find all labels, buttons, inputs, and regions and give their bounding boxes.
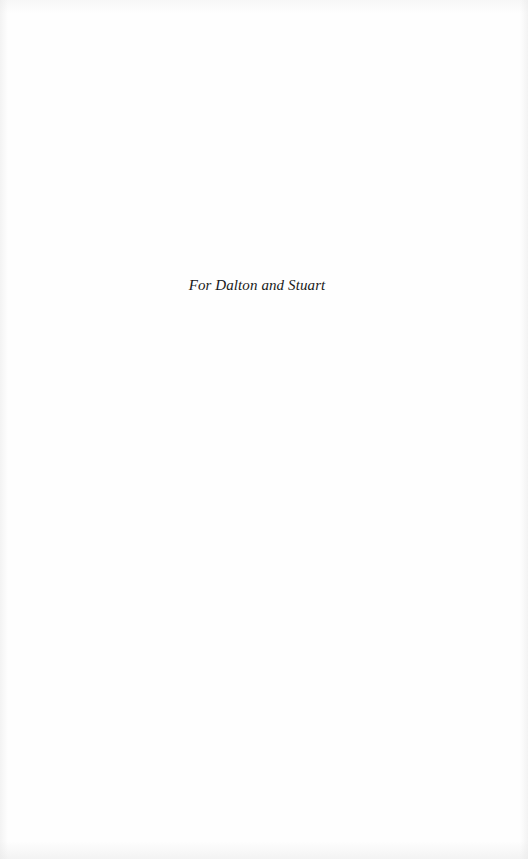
scan-edge-right bbox=[520, 0, 528, 859]
dedication-text: For Dalton and Stuart bbox=[0, 276, 514, 294]
scan-edge-bottom bbox=[0, 841, 528, 859]
book-page: For Dalton and Stuart bbox=[0, 0, 528, 859]
scan-edge-top bbox=[0, 0, 528, 14]
scan-edge-left bbox=[0, 0, 8, 859]
